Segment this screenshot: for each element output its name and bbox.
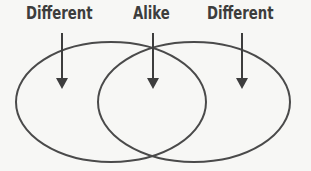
venn-diagram — [0, 0, 311, 171]
right-circle — [98, 42, 290, 162]
arrow-center-icon — [147, 33, 159, 89]
arrow-left-icon — [56, 33, 68, 89]
arrow-right-icon — [236, 33, 248, 89]
left-circle — [16, 42, 206, 162]
